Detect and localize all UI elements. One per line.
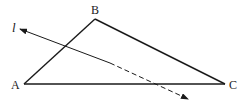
side-bc — [95, 19, 225, 84]
line-l-solid — [20, 29, 110, 63]
label-c: C — [229, 78, 237, 92]
label-a: A — [11, 78, 20, 92]
line-l-dashed — [110, 63, 188, 99]
label-line-l: l — [12, 20, 16, 35]
triangle-diagram: B A C l — [0, 0, 249, 105]
label-b: B — [91, 3, 99, 17]
side-ab — [24, 19, 95, 84]
